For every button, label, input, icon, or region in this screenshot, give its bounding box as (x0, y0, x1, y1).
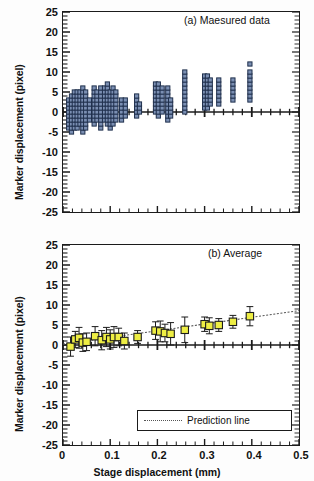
data-point (121, 337, 128, 344)
y-tick-label: 0 (16, 107, 58, 118)
figure-container: Marker displacement (pixel) 25 20 15 10 … (0, 0, 314, 481)
panel-a-plot-area (62, 11, 300, 213)
y-tick-label: 10 (16, 300, 58, 311)
data-point (215, 321, 222, 328)
y-tick-label: -5 (16, 360, 58, 371)
y-tick-label: -10 (16, 147, 58, 158)
y-tick-label: -5 (16, 127, 58, 138)
data-point (217, 78, 221, 82)
y-tick-label: 5 (16, 87, 58, 98)
data-point (183, 70, 187, 74)
panel-a-title: (a) Maesured data (184, 14, 270, 26)
data-point (181, 326, 188, 333)
data-point (169, 98, 173, 102)
y-tick-label: -10 (16, 380, 58, 391)
x-axis-label: Stage displacement (mm) (0, 466, 314, 478)
y-tick-label: 0 (16, 340, 58, 351)
x-tick-label: 0.1 (99, 450, 125, 461)
data-point (134, 333, 141, 340)
data-point (248, 70, 252, 74)
data-point (137, 102, 141, 106)
data-point (84, 90, 88, 94)
x-tick-label: 0.3 (194, 450, 220, 461)
y-tick-label: 15 (16, 280, 58, 291)
panel-b-legend: Prediction line (137, 410, 292, 431)
data-point (67, 343, 74, 350)
data-point (248, 62, 252, 66)
data-point (114, 90, 118, 94)
y-tick-label: 15 (16, 47, 58, 58)
data-point (135, 94, 139, 98)
x-tick-label: 0 (52, 450, 72, 461)
measured-data-points (67, 62, 252, 134)
data-point (246, 313, 253, 320)
panel-a-canvas (63, 12, 299, 212)
y-tick-label: -20 (16, 420, 58, 431)
y-tick-label: 5 (16, 320, 58, 331)
data-point (231, 78, 235, 82)
y-tick-label: -15 (16, 167, 58, 178)
y-tick-label: 25 (16, 7, 58, 18)
y-tick-label: 20 (16, 27, 58, 38)
y-tick-label: 25 (16, 240, 58, 251)
x-tick-label: 0.4 (241, 450, 267, 461)
panel-b-title: (b) Average (208, 247, 262, 259)
y-tick-label: 20 (16, 260, 58, 271)
data-point (167, 330, 174, 337)
x-tick-label: 0.2 (146, 450, 172, 461)
data-point (160, 86, 164, 90)
y-tick-label: -25 (16, 207, 58, 218)
data-point (123, 98, 127, 102)
data-point (208, 78, 212, 82)
data-point (206, 322, 213, 329)
y-tick-label: -20 (16, 187, 58, 198)
legend-item-prediction-line: Prediction line (187, 415, 250, 426)
x-tick-label: 0.5 (288, 450, 314, 461)
data-point (87, 98, 91, 102)
data-point (105, 82, 109, 86)
data-point (166, 86, 170, 90)
data-point (83, 338, 90, 345)
y-tick-label: 10 (16, 67, 58, 78)
y-tick-label: -15 (16, 400, 58, 411)
prediction-line-swatch-icon (144, 420, 182, 421)
data-point (229, 318, 236, 325)
